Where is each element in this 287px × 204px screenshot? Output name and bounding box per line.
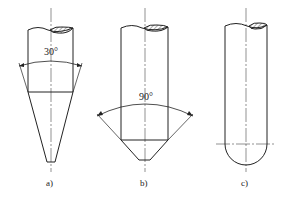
caption-c: c): [241, 178, 248, 188]
probe-a: [19, 8, 82, 172]
probe-tip-diagram: 30° 90° a) b) c): [0, 0, 287, 204]
probe-b: [97, 8, 193, 172]
angle-label-b: 90°: [139, 91, 153, 102]
angle-label-a: 30°: [44, 46, 58, 57]
probe-c: [216, 8, 276, 172]
diagram-drawing: [0, 0, 287, 204]
caption-a: a): [46, 178, 53, 188]
caption-b: b): [140, 178, 148, 188]
